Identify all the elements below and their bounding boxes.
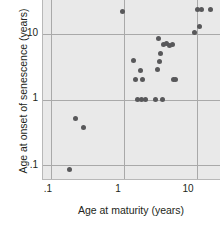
y-axis-title: Age at onset of senescence (years)	[17, 1, 29, 181]
gridline-horizontal	[43, 165, 220, 166]
data-point	[156, 36, 161, 41]
data-point	[160, 97, 165, 102]
data-point	[158, 51, 163, 56]
x-tick-label-1: 1	[105, 183, 131, 194]
x-axis-title: Age at maturity (years)	[42, 204, 220, 216]
data-point	[73, 116, 78, 121]
gridline-vertical	[51, 0, 52, 179]
scatter-plot-figure: 10 1 .1 .1 1 10 Age at maturity (years) …	[0, 0, 220, 226]
data-point	[170, 42, 175, 47]
plot-area	[42, 0, 220, 180]
data-point	[67, 167, 72, 172]
data-point	[138, 68, 143, 73]
gridline-horizontal	[43, 100, 220, 101]
data-point	[133, 77, 138, 82]
data-point	[155, 67, 160, 72]
data-point	[153, 97, 158, 102]
data-point	[157, 59, 162, 64]
gridline-vertical	[124, 0, 125, 179]
data-point	[131, 58, 136, 63]
x-tick-label-10: 10	[175, 183, 201, 194]
data-point	[173, 77, 178, 82]
x-tick-label-point1: .1	[35, 183, 61, 194]
data-point	[208, 7, 213, 12]
data-point	[199, 7, 204, 12]
data-point	[143, 97, 148, 102]
data-point	[120, 9, 125, 14]
data-point	[197, 24, 202, 29]
data-point	[140, 77, 145, 82]
data-point	[81, 125, 86, 130]
